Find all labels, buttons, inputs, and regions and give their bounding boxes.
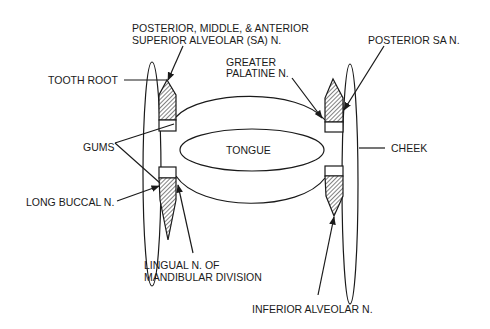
inferior-alveolar-arrow	[318, 217, 334, 295]
left-lower-tooth-root	[159, 178, 176, 240]
sa-nerves-arrow	[168, 46, 183, 80]
greater-palatine-arrow	[292, 78, 322, 118]
gums-leader-lower	[115, 143, 160, 183]
label-sa-nerves-1: POSTERIOR, MIDDLE, & ANTERIOR	[132, 22, 309, 34]
label-tongue: TONGUE	[226, 144, 271, 156]
gums-leader-upper	[115, 124, 174, 143]
oral-nerve-diagram: POSTERIOR, MIDDLE, & ANTERIOR SUPERIOR A…	[0, 0, 490, 329]
right-lower-tooth-root	[325, 176, 343, 216]
label-lingual-2: MANDIBULAR DIVISION	[144, 271, 262, 283]
lower-mouth-curve	[176, 176, 325, 203]
label-long-buccal: LONG BUCCAL N.	[26, 196, 114, 208]
label-sa-nerves-2: SUPERIOR ALVEOLAR (SA) N.	[132, 34, 281, 46]
right-lower-gum	[325, 166, 343, 176]
label-gums: GUMS	[83, 141, 115, 153]
label-tooth-root: TOOTH ROOT	[48, 74, 118, 86]
label-posterior-sa: POSTERIOR SA N.	[368, 34, 460, 46]
right-upper-gum	[325, 122, 343, 132]
right-upper-tooth-root	[325, 79, 343, 122]
posterior-sa-arrow	[344, 46, 384, 110]
label-lingual-1: LINGUAL N. OF	[144, 259, 219, 271]
label-cheek: CHEEK	[391, 142, 427, 154]
left-upper-tooth-root	[159, 80, 176, 120]
label-greater-palatine-2: PALATINE N.	[226, 67, 289, 79]
left-lower-gum	[159, 167, 176, 178]
label-inferior-alveolar: INFERIOR ALVEOLAR N.	[252, 303, 373, 315]
long-buccal-arrow	[117, 186, 159, 201]
upper-mouth-curve	[176, 96, 325, 120]
left-cheek-outline	[143, 62, 161, 286]
lingual-arrow	[178, 185, 193, 253]
